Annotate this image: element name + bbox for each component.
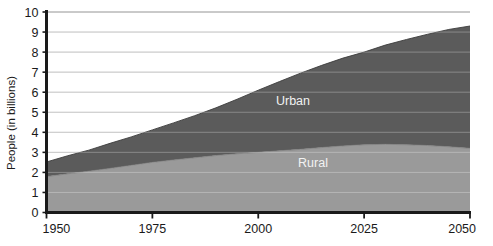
population-area-chart: 012345678910 19501975200020252050 People… [0, 0, 493, 246]
x-tick-label: 2000 [244, 222, 272, 236]
y-tick-label: 3 [32, 146, 39, 160]
y-tick-label: 10 [25, 6, 39, 20]
y-tick-label: 1 [32, 186, 39, 200]
y-tick-label: 9 [32, 26, 39, 40]
y-tick-label: 2 [32, 166, 39, 180]
x-tick-label: 2025 [350, 222, 378, 236]
y-tick-label: 0 [32, 206, 39, 220]
y-tick-label: 8 [32, 46, 39, 60]
chart-canvas: 012345678910 19501975200020252050 People… [0, 0, 493, 246]
y-tick-label: 7 [32, 66, 39, 80]
y-axis-title: People (in billions) [5, 76, 17, 170]
x-tick-label: 1975 [138, 222, 166, 236]
x-tick-label: 2050 [448, 222, 476, 236]
series-label-rural: Rural [298, 156, 328, 170]
y-tick-label: 5 [32, 106, 39, 120]
y-tick-label: 6 [32, 86, 39, 100]
x-tick-label: 1950 [43, 222, 71, 236]
series-label-urban: Urban [276, 94, 310, 108]
y-tick-label: 4 [32, 126, 39, 140]
